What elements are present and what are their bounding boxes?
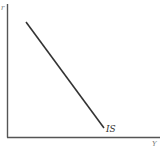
is-curve-chart: r Y IS [0, 0, 163, 146]
x-axis-label: Y [152, 140, 158, 146]
is-curve [26, 22, 104, 128]
y-axis-label: r [1, 4, 5, 12]
is-curve-label: IS [105, 124, 116, 134]
